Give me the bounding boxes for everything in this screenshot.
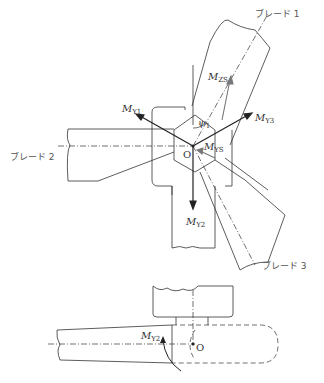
side-view-blade-hidden [172, 325, 278, 363]
label-blade-2: ブレード 2 [10, 151, 55, 162]
label-mys: MYS [203, 141, 224, 154]
label-origin: O [183, 149, 191, 160]
label-my1: MY1 [121, 103, 141, 116]
blade-3 [200, 160, 285, 270]
blade-3-axis [193, 146, 255, 265]
label-my2-side: MY2 [140, 330, 160, 343]
label-psi: ψ1 [198, 117, 210, 130]
rotor-hub-diagram: ブレード 1 ブレード 2 ブレード 3 O O ψ1 MY1 MY3 MY2 … [0, 0, 324, 383]
blade-2 [67, 129, 174, 181]
label-blade-3: ブレード 3 [262, 260, 307, 271]
label-mzs: MZS [207, 71, 228, 84]
label-blade-1: ブレード 1 [255, 8, 300, 19]
label-origin-side: O [196, 342, 204, 353]
label-my3: MY3 [254, 112, 274, 125]
label-my2: MY2 [185, 216, 205, 229]
